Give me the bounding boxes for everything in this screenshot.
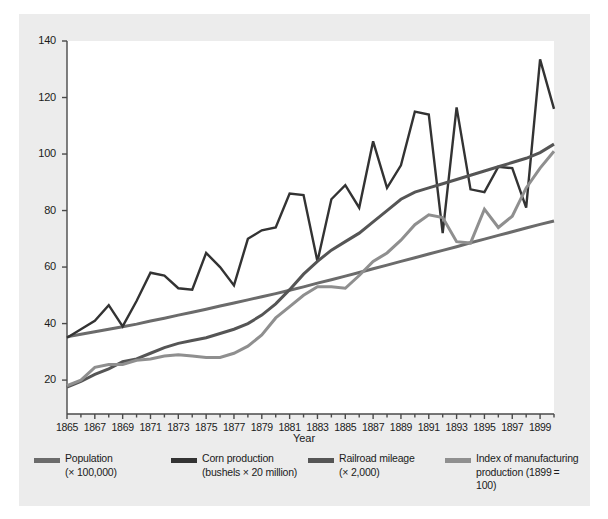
y-axis-tick-label: 120: [22, 91, 56, 103]
legend-label-main: Corn production: [202, 452, 274, 464]
legend-swatch-manufacturing: [445, 458, 471, 463]
legend-item[interactable]: Index of manufacturingproduction (1899 =…: [445, 452, 585, 493]
legend-label-sub: (× 2,000): [339, 466, 443, 480]
legend-item[interactable]: Corn production(bushels × 20 million): [171, 452, 311, 479]
legend-label-main: Population: [65, 452, 113, 464]
legend-label-sub: (× 100,000): [65, 466, 169, 480]
x-axis-tick-label: 1899: [523, 421, 557, 433]
series-lines: [67, 59, 554, 387]
y-axis-tick-label: 140: [22, 34, 56, 46]
y-axis-tick-label: 20: [22, 373, 56, 385]
legend-label-main: Railroad mileage: [339, 452, 415, 464]
legend-swatch-population: [34, 458, 60, 463]
legend-label-sub: (bushels × 20 million): [202, 466, 306, 480]
chart-legend: Population(× 100,000) Corn production(bu…: [34, 452, 579, 496]
legend-swatch-railroad: [308, 458, 334, 463]
y-axis-tick-label: 80: [22, 204, 56, 216]
legend-item[interactable]: Railroad mileage(× 2,000): [308, 452, 448, 479]
legend-label-main: Index of manufacturing: [476, 452, 578, 464]
y-axis-tick-label: 60: [22, 260, 56, 272]
y-axis-tick-label: 100: [22, 147, 56, 159]
series-line-railroad-mileage: [67, 144, 554, 387]
legend-label-population: Population(× 100,000): [65, 452, 169, 479]
series-line-population: [67, 221, 554, 337]
legend-swatch-corn: [171, 458, 197, 463]
legend-label-sub: production (1899 = 100): [476, 466, 580, 493]
legend-label-railroad: Railroad mileage(× 2,000): [339, 452, 443, 479]
legend-label-manufacturing: Index of manufacturingproduction (1899 =…: [476, 452, 580, 493]
x-axis-title: Year: [269, 432, 339, 444]
figure-root: 20406080100120140 1865186718691871187318…: [0, 0, 608, 519]
legend-item[interactable]: Population(× 100,000): [34, 452, 174, 479]
series-line-corn-production: [67, 59, 554, 337]
legend-label-corn: Corn production(bushels × 20 million): [202, 452, 306, 479]
axis-ticks: [62, 41, 554, 419]
y-axis-tick-label: 40: [22, 317, 56, 329]
